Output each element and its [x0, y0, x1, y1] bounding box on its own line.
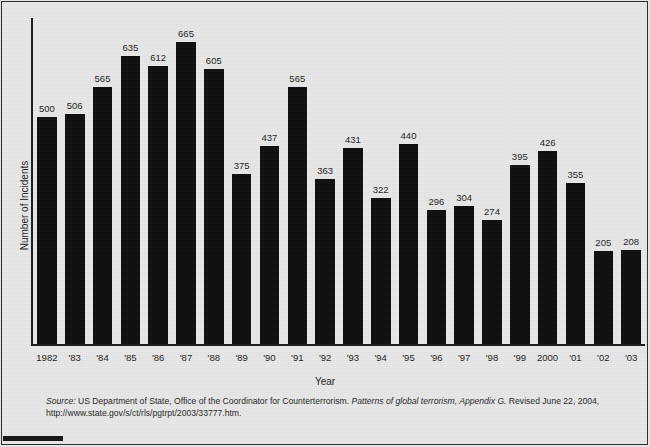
bar-value-label-1988: 605 — [196, 56, 232, 66]
bar-1999 — [510, 165, 530, 344]
source-label: Source: — [46, 396, 76, 406]
bar-1982 — [37, 117, 57, 344]
bar-1986 — [148, 66, 168, 344]
bar-1984 — [93, 87, 113, 344]
source-url-line2: state.gov/s/ct/rls/pgtrpt/2003/33777.htm… — [88, 408, 241, 418]
source-appendix: Appendix G. — [457, 396, 506, 406]
bar-1987 — [176, 42, 196, 344]
bar-value-label-1986: 612 — [140, 53, 176, 63]
chart-plot-area: Number of Incidents Year 500506565635612… — [0, 0, 650, 447]
bar-value-label-1993: 431 — [335, 135, 371, 145]
bar-1997 — [454, 206, 474, 344]
bar-1992 — [315, 179, 335, 344]
x-axis-line — [31, 344, 645, 346]
bar-value-label-1990: 437 — [252, 133, 288, 143]
bar-value-label-1998: 274 — [474, 207, 510, 217]
bar-1994 — [371, 198, 391, 344]
bar-value-label-1985: 635 — [113, 43, 149, 53]
bar-1993 — [343, 148, 363, 344]
bar-value-label-1997: 304 — [446, 193, 482, 203]
bar-value-label-1983: 506 — [57, 101, 93, 111]
bar-value-label-1989: 375 — [224, 161, 260, 171]
bar-1990 — [260, 146, 280, 344]
figure-container: Number of Incidents Year 500506565635612… — [0, 0, 650, 447]
x-axis-title: Year — [0, 376, 650, 387]
bar-value-label-1987: 665 — [168, 29, 204, 39]
bar-1985 — [121, 56, 141, 344]
bottom-rule-mark — [3, 436, 63, 441]
bar-value-label-2000: 426 — [530, 138, 566, 148]
bar-1998 — [482, 220, 502, 344]
bar-value-label-1994: 322 — [363, 185, 399, 195]
bar-value-label-1984: 565 — [85, 74, 121, 84]
bar-value-label-2001: 355 — [558, 170, 594, 180]
bar-value-label-1992: 363 — [307, 166, 343, 176]
x-tick-2003: '03 — [612, 352, 650, 363]
bar-2003 — [621, 250, 641, 344]
bar-value-label-1991: 565 — [279, 74, 315, 84]
bar-2001 — [566, 183, 586, 344]
bar-1995 — [399, 144, 419, 344]
source-body-1: US Department of State, Office of the Co… — [76, 396, 352, 406]
bar-1991 — [288, 87, 308, 344]
y-axis-title: Number of Incidents — [19, 136, 30, 276]
bar-2002 — [594, 251, 614, 344]
bar-value-label-1995: 440 — [391, 131, 427, 141]
source-citation: Source: US Department of State, Office o… — [46, 396, 612, 419]
bar-2000 — [538, 151, 558, 344]
bar-value-label-1999: 395 — [502, 152, 538, 162]
bar-1996 — [427, 210, 447, 344]
source-publication-title: Patterns of global terrorism, — [352, 396, 458, 406]
bar-1983 — [65, 114, 85, 344]
bar-1989 — [232, 174, 252, 344]
bar-1988 — [204, 69, 224, 344]
bar-value-label-2003: 208 — [613, 237, 649, 247]
y-axis-line — [31, 18, 33, 346]
